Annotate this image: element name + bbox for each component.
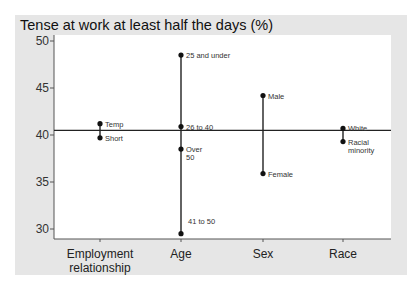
x-category-label: relationship xyxy=(69,261,131,275)
y-tick-label: 30 xyxy=(36,222,50,236)
data-point xyxy=(260,93,265,98)
point-label: 41 to 50 xyxy=(188,217,215,226)
point-label: Short xyxy=(105,134,124,143)
data-point xyxy=(178,124,183,129)
point-label: minority xyxy=(348,146,375,155)
data-point xyxy=(260,171,265,176)
point-label: 26 to 40 xyxy=(186,123,213,132)
data-point xyxy=(340,126,345,131)
x-category-label: Age xyxy=(170,247,192,261)
point-label: Temp xyxy=(105,120,123,129)
y-tick-label: 40 xyxy=(36,128,50,142)
x-category-label: Employment xyxy=(67,247,134,261)
data-point xyxy=(178,147,183,152)
point-label: 25 and under xyxy=(186,51,231,60)
point-label: Male xyxy=(268,92,284,101)
data-point xyxy=(340,139,345,144)
y-tick-label: 50 xyxy=(36,34,50,48)
point-label: 50 xyxy=(186,153,194,162)
data-point xyxy=(97,121,102,126)
y-tick-label: 35 xyxy=(36,175,50,189)
x-category-label: Sex xyxy=(253,247,274,261)
x-category-label: Race xyxy=(329,247,357,261)
y-tick-label: 45 xyxy=(36,81,50,95)
data-point xyxy=(178,53,183,58)
point-label: White xyxy=(348,124,367,133)
data-point xyxy=(97,135,102,140)
point-label: Female xyxy=(268,170,293,179)
data-point xyxy=(178,231,183,236)
chart-plot: 3035404550TempShortEmploymentrelationshi… xyxy=(0,0,420,286)
